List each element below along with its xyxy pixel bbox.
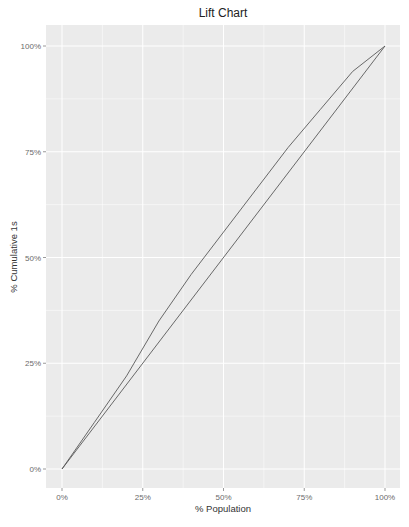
x-tick-label: 25%: [135, 493, 151, 502]
lift-chart: 0%25%50%75%100%0%25%50%75%100% % Populat…: [0, 0, 409, 527]
y-tick-label: 0%: [29, 465, 41, 474]
x-tick-label: 50%: [215, 493, 231, 502]
y-tick-label: 50%: [25, 254, 41, 263]
x-tick-label: 0%: [56, 493, 68, 502]
x-axis-title: % Population: [195, 503, 251, 514]
x-tick-label: 75%: [296, 493, 312, 502]
x-tick-label: 100%: [375, 493, 395, 502]
y-tick-label: 75%: [25, 148, 41, 157]
y-tick-label: 25%: [25, 359, 41, 368]
y-axis-title: % Cumulative 1s: [8, 221, 19, 293]
y-tick-label: 100%: [21, 42, 41, 51]
